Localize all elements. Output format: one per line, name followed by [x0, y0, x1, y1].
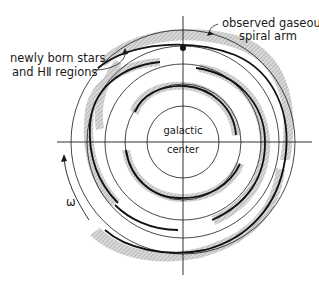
label-center-line2: center [167, 144, 200, 155]
label-gas-line2: spiral arm [239, 29, 297, 43]
label-omega: ω [66, 195, 76, 209]
label-center-line1: galactic [163, 125, 202, 136]
reference-dot [180, 45, 186, 51]
label-gas-line1: observed gaseous [222, 16, 319, 30]
label-newborn-line1: newly born stars [10, 51, 106, 65]
label-newborn-line2: and HⅡ regions [12, 65, 98, 79]
rotation-arrow [64, 158, 89, 220]
spiral-arm-diagram: newly born stars and HⅡ regions observed… [0, 0, 319, 283]
rotation-arrowhead [61, 154, 67, 162]
